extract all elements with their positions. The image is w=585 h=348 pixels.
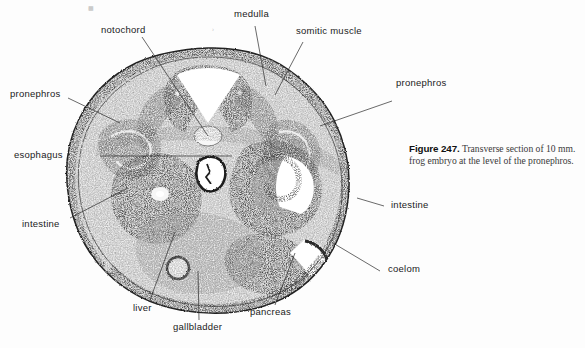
figure-page: ▩ › — [0, 0, 585, 348]
leader-somitic-muscle — [275, 42, 303, 95]
leader-liver — [150, 232, 175, 300]
label-pronephros-left: pronephros — [10, 89, 61, 99]
leader-intestine-left — [70, 188, 128, 218]
leader-notochord — [142, 37, 208, 136]
leader-coelom — [333, 243, 380, 271]
label-esophagus: esophagus — [14, 150, 63, 160]
label-intestine-right: intestine — [391, 200, 429, 210]
figure-number: Figure 247. — [409, 143, 460, 154]
label-somitic-muscle: somitic muscle — [296, 26, 362, 36]
leader-pronephros-right — [320, 101, 392, 126]
label-pronephros-right: pronephros — [396, 78, 447, 88]
label-liver: liver — [133, 303, 152, 313]
label-notochord: notochord — [101, 25, 146, 35]
leader-pancreas — [275, 253, 295, 305]
label-medulla: medulla — [234, 9, 269, 19]
figure-caption: Figure 247. Transverse section of 10 mm.… — [409, 143, 577, 168]
leader-medulla — [255, 26, 266, 86]
label-coelom: coelom — [388, 264, 420, 274]
leader-intestine-right — [357, 198, 384, 206]
leader-gallbladder — [198, 271, 199, 320]
leader-pronephros-left — [68, 98, 120, 123]
label-intestine-left: intestine — [22, 219, 60, 229]
leader-lines — [0, 0, 585, 348]
label-pancreas: pancreas — [250, 307, 291, 317]
label-gallbladder: gallbladder — [173, 322, 222, 332]
